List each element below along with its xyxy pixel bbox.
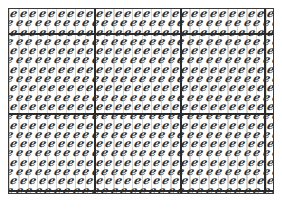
glyph-row: eeeeeeeeeeeeeeeeeeeeeeeeeeeee bbox=[9, 55, 273, 64]
glyph-pattern-field: eeeeeeeeeeeeeeeeeeeeeeeeeeeeeeeeeeeeeeee… bbox=[9, 9, 273, 193]
pattern-canvas: eeeeeeeeeeeeeeeeeeeeeeeeeeeeeeeeeeeeeeee… bbox=[0, 0, 282, 210]
glyph-row: eeeeeeeeeeeeeeeeeeeeeeeeeeeee bbox=[9, 102, 273, 111]
glyph-row: eeeeeeeeeeeeeeeeeeeeeeeeeeeee bbox=[9, 130, 273, 139]
glyph-row: eeeeeeeeeeeeeeeeeeeeeeeeeeeee bbox=[9, 176, 273, 185]
pattern-frame: eeeeeeeeeeeeeeeeeeeeeeeeeeeeeeeeeeeeeeee… bbox=[8, 8, 274, 194]
glyph-row: eeeeeeeeeeeeeeeeeeeeeeeeeeeee bbox=[9, 83, 273, 92]
glyph-row: eeeeeeeeeeeeeeeeeeeeeeeeeeeee bbox=[9, 93, 273, 102]
divider-v-3 bbox=[264, 9, 266, 193]
divider-v-2 bbox=[180, 9, 182, 193]
divider-h-3 bbox=[9, 190, 273, 192]
divider-h-1 bbox=[9, 33, 273, 35]
pattern-glyph: e bbox=[270, 55, 273, 64]
glyph-row: eeeeeeeeeeeeeeeeeeeeeeeeeeeee bbox=[9, 65, 273, 74]
glyph-row: eeeeeeeeeeeeeeeeeeeeeeeeeeeee bbox=[9, 46, 273, 55]
glyph-row: eeeeeeeeeeeeeeeeeeeeeeeeeeeee bbox=[9, 158, 273, 167]
pattern-glyph: e bbox=[270, 18, 273, 27]
glyph-row: eeeeeeeeeeeeeeeeeeeeeeeeeeeee bbox=[9, 37, 273, 46]
divider-v-1 bbox=[94, 9, 96, 193]
glyph-row: eeeeeeeeeeeeeeeeeeeeeeeeeeeee bbox=[9, 167, 273, 176]
glyph-row: eeeeeeeeeeeeeeeeeeeeeeeeeeeee bbox=[9, 148, 273, 157]
glyph-row: eeeeeeeeeeeeeeeeeeeeeeeeeeeee bbox=[9, 121, 273, 130]
glyph-row: eeeeeeeeeeeeeeeeeeeeeeeeeeeee bbox=[9, 74, 273, 83]
divider-h-2 bbox=[9, 113, 273, 115]
glyph-row: eeeeeeeeeeeeeeeeeeeeeeeeeeeee bbox=[9, 9, 273, 18]
glyph-row: eeeeeeeeeeeeeeeeeeeeeeeeeeeee bbox=[9, 139, 273, 148]
glyph-row: eeeeeeeeeeeeeeeeeeeeeeeeeeeee bbox=[9, 18, 273, 27]
pattern-glyph: e bbox=[270, 148, 273, 157]
